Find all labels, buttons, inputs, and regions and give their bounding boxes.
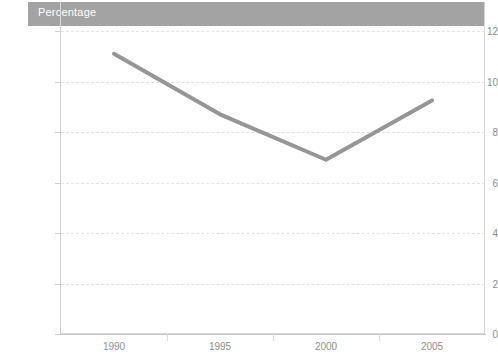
x-tick-mark-2000 [273, 334, 274, 341]
y-axis-line [60, 26, 61, 334]
line-chart-figure: Percentage 121086420 1990199520002005 [0, 0, 498, 363]
x-tick-label-2000: 2000 [315, 341, 337, 352]
y-tick-label-0: 0 [450, 329, 498, 340]
gridline-y-10 [61, 82, 485, 83]
y-tick-label-8: 8 [450, 127, 498, 138]
y-tick-mark-2 [55, 284, 60, 285]
x-tick-mark-2005 [379, 334, 380, 341]
gridline-y-4 [61, 233, 485, 234]
x-tick-mark-1995 [167, 334, 168, 341]
x-tick-label-1990: 1990 [103, 341, 125, 352]
y-tick-label-12: 12 [450, 26, 498, 37]
y-tick-mark-0 [55, 334, 60, 335]
gridline-y-8 [61, 132, 485, 133]
y-tick-mark-6 [55, 183, 60, 184]
y-tick-label-4: 4 [450, 228, 498, 239]
y-tick-label-10: 10 [450, 76, 498, 87]
y-tick-label-2: 2 [450, 278, 498, 289]
x-tick-label-1995: 1995 [209, 341, 231, 352]
gridline-y-12 [61, 31, 485, 32]
x-tick-label-2005: 2005 [421, 341, 443, 352]
y-tick-mark-12 [55, 31, 60, 32]
y-tick-mark-4 [55, 233, 60, 234]
gridline-y-6 [61, 183, 485, 184]
y-tick-mark-10 [55, 82, 60, 83]
y-tick-mark-8 [55, 132, 60, 133]
gridline-y-2 [61, 284, 485, 285]
y-tick-label-6: 6 [450, 177, 498, 188]
